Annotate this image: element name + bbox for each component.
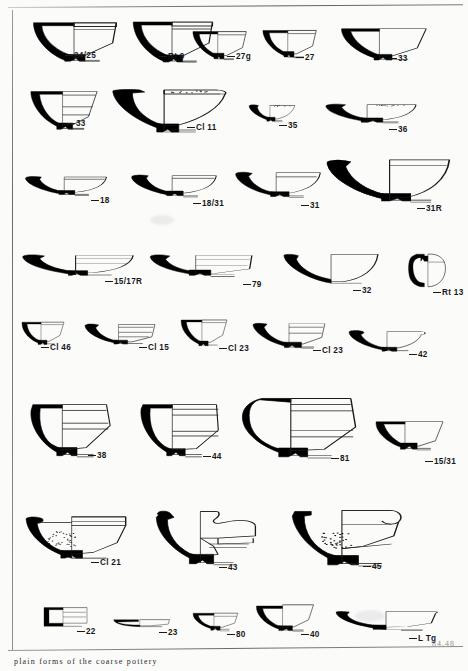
profile-drawing: [232, 168, 324, 202]
pottery-plate: 24/25Rt 927g273333Cl 1135361818/313131R1…: [0, 0, 468, 671]
label-leader-tick: [187, 127, 195, 128]
figure-label: 33: [398, 55, 408, 63]
vessel-profile-cl-23: [250, 320, 328, 350]
label-leader-tick: [243, 284, 251, 285]
vessel-profile-cl-23: [178, 316, 230, 349]
paper-smudge: [150, 215, 174, 225]
profile-drawing: [20, 400, 112, 458]
vessel-profile-33: [28, 87, 100, 132]
figure-label: 15/17R: [114, 278, 142, 286]
profile-drawing: [152, 508, 262, 566]
caption-text: plain forms of the coarse pottery: [14, 657, 158, 666]
label-leader-tick: [219, 348, 227, 349]
vessel-profile-18-31: [128, 170, 220, 202]
profile-drawing: [250, 320, 328, 350]
label-leader-tick: [65, 55, 73, 56]
label-leader-tick: [409, 638, 417, 639]
vessel-profile-44: [130, 400, 222, 458]
figure-label: Cl 11: [196, 124, 217, 132]
figure-label: 31R: [426, 205, 442, 213]
figure-label: 15/31: [434, 458, 456, 466]
label-leader-tick: [363, 566, 371, 567]
vessel-profile-cl-21: [22, 513, 130, 561]
profile-drawing: [178, 316, 230, 349]
profile-drawing: [146, 249, 254, 281]
profile-drawing: [28, 87, 100, 132]
vessel-profile-18: [22, 172, 110, 200]
label-leader-tick: [203, 456, 211, 457]
figure-label: Rt 13: [442, 289, 464, 297]
label-leader-tick: [296, 57, 304, 58]
figure-label: 45: [372, 563, 382, 571]
figure-label: 22: [86, 628, 96, 636]
profile-drawing: [332, 609, 440, 635]
label-leader-tick: [88, 455, 96, 456]
plate-top-rule: [8, 4, 463, 8]
profile-drawing: [110, 616, 172, 630]
vessel-profile-40: [254, 603, 316, 633]
vessel-profile-45: [290, 508, 408, 566]
profile-drawing: [346, 326, 428, 354]
label-leader-tick: [159, 56, 167, 57]
label-leader-tick: [219, 567, 227, 568]
figure-label: 23: [168, 629, 178, 637]
label-leader-tick: [313, 350, 321, 351]
figure-label: Cl 15: [148, 344, 169, 352]
vessel-profile-43: [152, 508, 262, 566]
profile-drawing: [128, 170, 220, 202]
label-leader-tick: [301, 634, 309, 635]
figure-label: Cl 23: [228, 345, 249, 353]
plate-bottom-rule: [8, 646, 463, 651]
label-leader-tick: [159, 632, 167, 633]
vessel-profile-l-tg: [332, 609, 440, 635]
vessel-profile-22: [40, 605, 90, 631]
label-leader-tick: [77, 631, 85, 632]
label-leader-tick: [91, 562, 99, 563]
figure-label: 18: [100, 197, 110, 205]
profile-drawing: [254, 603, 316, 633]
profile-drawing: [290, 508, 408, 566]
figure-label: Rt 9: [168, 53, 185, 61]
figure-label: Cl 21: [100, 559, 121, 567]
label-leader-tick: [279, 125, 287, 126]
profile-drawing: [370, 418, 446, 456]
vessel-profile-rt-13: [405, 248, 449, 292]
vessel-profile-cl-15: [82, 320, 158, 348]
label-leader-tick: [105, 281, 113, 282]
label-leader-tick: [227, 634, 235, 635]
figure-label: 27g: [236, 53, 251, 61]
vessel-profile-33: [338, 24, 428, 64]
label-leader-tick: [139, 347, 147, 348]
figure-label: 42: [418, 351, 428, 359]
plate-left-rule: [12, 10, 13, 650]
label-leader-tick: [389, 129, 397, 130]
vessel-profile-38: [20, 400, 112, 458]
figure-label: 35: [288, 122, 298, 130]
vessel-profile-81: [238, 396, 358, 458]
figure-label: 43: [228, 564, 238, 572]
archive-mark: 84.48: [432, 639, 455, 648]
profile-drawing: [130, 400, 222, 458]
profile-drawing: [338, 24, 428, 64]
profile-drawing: [190, 608, 242, 634]
profile-drawing: [405, 248, 449, 292]
vessel-profile-80: [190, 608, 242, 634]
figure-label: 81: [340, 455, 350, 463]
profile-drawing: [22, 513, 130, 561]
label-leader-tick: [91, 200, 99, 201]
label-leader-tick: [417, 208, 425, 209]
profile-drawing: [278, 250, 380, 286]
figure-label: 44: [212, 453, 222, 461]
figure-label: Cl 46: [50, 344, 71, 352]
profile-drawing: [40, 605, 90, 631]
figure-label: 32: [362, 287, 372, 295]
vessel-profile-31: [232, 168, 324, 202]
label-leader-tick: [331, 458, 339, 459]
label-leader-tick: [193, 203, 201, 204]
label-leader-tick: [301, 205, 309, 206]
label-leader-tick: [353, 290, 361, 291]
figure-label: 38: [97, 452, 107, 460]
figure-label: 27: [305, 54, 315, 62]
figure-label: 80: [236, 631, 246, 639]
figure-label: 18/31: [202, 200, 224, 208]
